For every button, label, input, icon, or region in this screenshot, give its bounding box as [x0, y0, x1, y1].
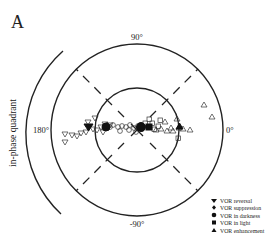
angle-label-90: 90° [131, 32, 143, 42]
angle-label-neg90: -90° [130, 219, 145, 229]
legend-label-suppression: VOR suppression [220, 205, 261, 211]
mean-enhancement-marker [176, 123, 183, 129]
legend: VOR reversal VOR suppression VOR in dark… [211, 198, 265, 234]
polar-chart: A in-phase quadrant 90° 0° 180° -90° [0, 0, 273, 243]
mean-darkness-marker [102, 123, 110, 131]
angle-label-180: 180° [33, 125, 49, 135]
legend-icon-reversal [211, 199, 217, 203]
panel-label: A [11, 12, 24, 32]
legend-label-enhancement: VOR enhancement [220, 228, 265, 234]
legend-icon-suppression [212, 205, 216, 209]
angle-label-0: 0° [226, 125, 234, 135]
side-label: in-phase quadrant [8, 99, 18, 167]
mean-darkness-marker-2 [137, 123, 146, 132]
mean-light-marker [146, 124, 152, 130]
enhancement-points [153, 102, 215, 133]
legend-icon-light [212, 221, 216, 225]
legend-label-light: VOR in light [220, 220, 251, 226]
legend-label-darkness: VOR in darkness [220, 213, 261, 219]
legend-icon-darkness [212, 213, 217, 218]
legend-label-reversal: VOR reversal [220, 198, 252, 204]
legend-icon-enhancement [212, 228, 217, 232]
